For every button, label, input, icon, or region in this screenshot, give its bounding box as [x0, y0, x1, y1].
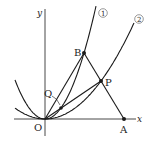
- y-axis-label: y: [36, 8, 43, 18]
- point-P: [99, 79, 103, 83]
- label-B: B: [74, 47, 81, 58]
- origin-label: O: [34, 122, 42, 133]
- curve-1-number: 1: [101, 10, 105, 18]
- parabola-curve-2: [15, 23, 134, 119]
- label-A: A: [119, 124, 128, 135]
- parabola-diagram: x y O B P A Q 1 2: [0, 0, 153, 141]
- curve-2-number: 2: [137, 16, 141, 24]
- label-P: P: [105, 77, 112, 88]
- point-Q: [59, 106, 63, 110]
- point-B: [82, 51, 86, 55]
- segment-OB: [45, 53, 84, 119]
- segment-OP: [45, 81, 101, 119]
- curve-2-label: 2: [135, 15, 144, 24]
- x-axis-label: x: [137, 114, 142, 124]
- label-Q: Q: [44, 88, 52, 99]
- point-A: [122, 117, 126, 121]
- segment-BA: [84, 53, 124, 119]
- curve-1-label: 1: [99, 9, 108, 18]
